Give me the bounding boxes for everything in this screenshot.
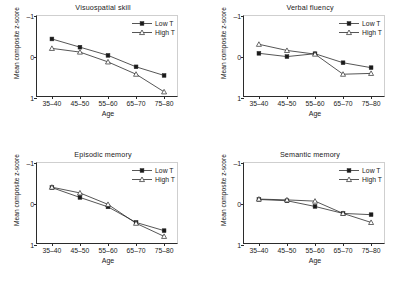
y-tick-mark — [34, 245, 37, 246]
legend: Low THigh T — [132, 20, 175, 36]
plot-area: Mean composite z-score10–135–4045–5055–6… — [243, 162, 385, 244]
x-tick-label: 65–70 — [334, 100, 353, 107]
plot-area: Mean composite z-score10–135–4045–5055–6… — [36, 162, 178, 244]
x-tick-label: 55–60 — [99, 100, 118, 107]
x-tick-label: 65–70 — [127, 100, 146, 107]
chart-panel-1: Visuospatial skillMean composite z-score… — [0, 0, 206, 147]
legend-label: High T — [362, 176, 382, 183]
filled-square-icon — [339, 167, 359, 174]
legend-item-low-t: Low T — [132, 20, 175, 27]
plot-area: Mean composite z-score10–135–4045–5055–6… — [36, 15, 178, 97]
y-tick-mark — [241, 98, 244, 99]
filled-square-icon — [132, 20, 152, 27]
legend-label: Low T — [155, 20, 173, 27]
x-tick-label: 45–50 — [71, 100, 90, 107]
figure-panel-grid: Visuospatial skillMean composite z-score… — [0, 0, 413, 294]
legend-label: Low T — [362, 167, 380, 174]
filled-square-icon — [132, 167, 152, 174]
x-tick-label: 45–50 — [278, 100, 297, 107]
y-axis-label: Mean composite z-score — [13, 135, 20, 245]
x-tick-label: 35–40 — [42, 100, 61, 107]
legend: Low THigh T — [339, 20, 382, 36]
x-tick-label: 75–80 — [362, 100, 381, 107]
x-tick-label: 45–50 — [278, 247, 297, 254]
x-tick-label: 55–60 — [306, 247, 325, 254]
open-triangle-icon — [339, 176, 359, 183]
legend-label: High T — [155, 29, 175, 36]
x-axis-label: Age — [244, 257, 386, 264]
series-line-high-t — [259, 44, 371, 74]
filled-square-icon — [339, 20, 359, 27]
legend-item-high-t: High T — [132, 176, 175, 183]
legend-item-low-t: Low T — [132, 167, 175, 174]
open-triangle-icon — [339, 29, 359, 36]
legend-item-low-t: Low T — [339, 20, 382, 27]
panel-title: Visuospatial skill — [0, 3, 206, 12]
y-axis-label: Mean composite z-score — [220, 135, 227, 245]
x-tick-label: 65–70 — [334, 247, 353, 254]
legend-label: Low T — [155, 167, 173, 174]
legend-item-high-t: High T — [339, 176, 382, 183]
panel-title: Episodic memory — [0, 150, 206, 159]
y-tick-mark — [241, 245, 244, 246]
panel-title: Verbal fluency — [207, 3, 413, 12]
x-axis-label: Age — [244, 110, 386, 117]
series-line-high-t — [52, 187, 164, 236]
legend-label: High T — [155, 176, 175, 183]
x-tick-label: 35–40 — [249, 100, 268, 107]
x-tick-label: 75–80 — [155, 100, 174, 107]
x-tick-label: 55–60 — [99, 247, 118, 254]
x-tick-label: 55–60 — [306, 100, 325, 107]
x-axis-label: Age — [37, 257, 179, 264]
y-tick-mark — [34, 98, 37, 99]
y-axis-label: Mean composite z-score — [13, 0, 20, 98]
chart-panel-3: Episodic memoryMean composite z-score10–… — [0, 147, 206, 294]
x-tick-label: 45–50 — [71, 247, 90, 254]
legend-label: High T — [362, 29, 382, 36]
legend-label: Low T — [362, 20, 380, 27]
legend-item-high-t: High T — [132, 29, 175, 36]
legend: Low THigh T — [339, 167, 382, 183]
y-axis-label: Mean composite z-score — [220, 0, 227, 98]
x-tick-label: 75–80 — [155, 247, 174, 254]
legend-item-low-t: Low T — [339, 167, 382, 174]
x-tick-label: 35–40 — [249, 247, 268, 254]
panel-title: Semantic memory — [207, 150, 413, 159]
chart-panel-2: Verbal fluencyMean composite z-score10–1… — [207, 0, 413, 147]
x-tick-label: 75–80 — [362, 247, 381, 254]
series-line-low-t — [52, 188, 164, 231]
open-triangle-icon — [132, 29, 152, 36]
x-tick-label: 65–70 — [127, 247, 146, 254]
chart-panel-4: Semantic memoryMean composite z-score10–… — [207, 147, 413, 294]
x-tick-label: 35–40 — [42, 247, 61, 254]
legend: Low THigh T — [132, 167, 175, 183]
legend-item-high-t: High T — [339, 29, 382, 36]
x-axis-label: Age — [37, 110, 179, 117]
plot-area: Mean composite z-score10–135–4045–5055–6… — [243, 15, 385, 97]
open-triangle-icon — [132, 176, 152, 183]
